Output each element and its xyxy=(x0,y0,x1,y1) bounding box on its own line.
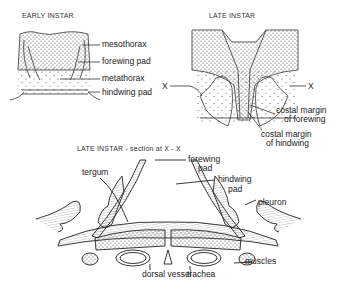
early-instar-title: EARLY INSTAR xyxy=(22,12,74,19)
label-trachea: trachea xyxy=(187,270,215,279)
label-forewing-pad-2: pad xyxy=(198,164,212,173)
label-tergum: tergum xyxy=(82,168,108,177)
late-instar-title: LATE INSTAR xyxy=(209,12,255,19)
label-hindwing-pad-1: hindwing xyxy=(218,175,252,184)
cross-section-drawing xyxy=(36,160,301,270)
x-marker-right: X xyxy=(308,82,314,91)
label-hindwing-pad-early: hindwing pad xyxy=(102,88,152,97)
label-hindwing-pad-2: pad xyxy=(228,185,242,194)
x-marker-left: X xyxy=(162,82,168,91)
label-metathorax: metathorax xyxy=(102,74,145,83)
label-forewing-pad-early: forewing pad xyxy=(102,57,151,66)
label-costal-forewing-2: of forewing xyxy=(284,115,326,124)
label-pleuron: pleuron xyxy=(258,198,286,207)
label-costal-hindwing-2: of hindwing xyxy=(266,139,309,148)
early-instar-drawing xyxy=(10,32,100,100)
section-title: LATE INSTAR - section at X - X xyxy=(77,145,181,152)
label-muscles: muscles xyxy=(245,257,276,266)
label-mesothorax: mesothorax xyxy=(102,40,146,49)
label-dorsal-vessel: dorsal vessel xyxy=(142,270,192,279)
